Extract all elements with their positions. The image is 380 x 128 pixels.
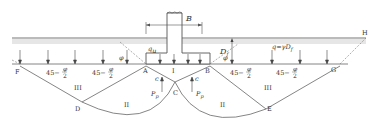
- passive-force-left: Pp: [150, 90, 159, 100]
- point-E: E: [267, 105, 272, 113]
- zone-III-left: III: [74, 84, 82, 92]
- zone-II-left: II: [124, 101, 130, 109]
- zone-I: I: [172, 67, 175, 75]
- cohesion-right: c: [195, 75, 199, 83]
- point-D: D: [75, 105, 80, 113]
- soil-hatch: [12, 39, 366, 44]
- svg-text:45−: 45−: [276, 69, 290, 77]
- point-A: A: [142, 67, 148, 75]
- svg-text:φ: φ: [223, 54, 228, 62]
- svg-text:φ: φ: [119, 54, 124, 62]
- passive-force-right: Pp: [195, 90, 204, 100]
- point-B: B: [205, 67, 210, 75]
- svg-text:2: 2: [247, 72, 251, 79]
- cohesion-left: c: [155, 75, 159, 83]
- failure-surfaces: [20, 66, 340, 118]
- svg-text:2: 2: [109, 72, 113, 79]
- svg-text:2: 2: [293, 72, 297, 79]
- width-label: B: [185, 14, 192, 23]
- surcharge-label: q=γDf: [272, 43, 294, 53]
- svg-text:2: 2: [63, 72, 67, 79]
- svg-text:45−: 45−: [92, 69, 106, 77]
- point-G: G: [331, 66, 336, 74]
- point-C: C: [173, 89, 178, 97]
- zone-III-right: III: [264, 84, 272, 92]
- surcharge-arrows-left: [19, 50, 129, 64]
- point-F: F: [15, 68, 20, 76]
- svg-text:45−: 45−: [230, 69, 244, 77]
- svg-text:45−: 45−: [46, 69, 60, 77]
- point-H: H: [362, 29, 368, 37]
- zone-II-right: II: [220, 101, 226, 109]
- bearing-capacity-diagram: B qu Df q=γDf F A B: [0, 0, 380, 128]
